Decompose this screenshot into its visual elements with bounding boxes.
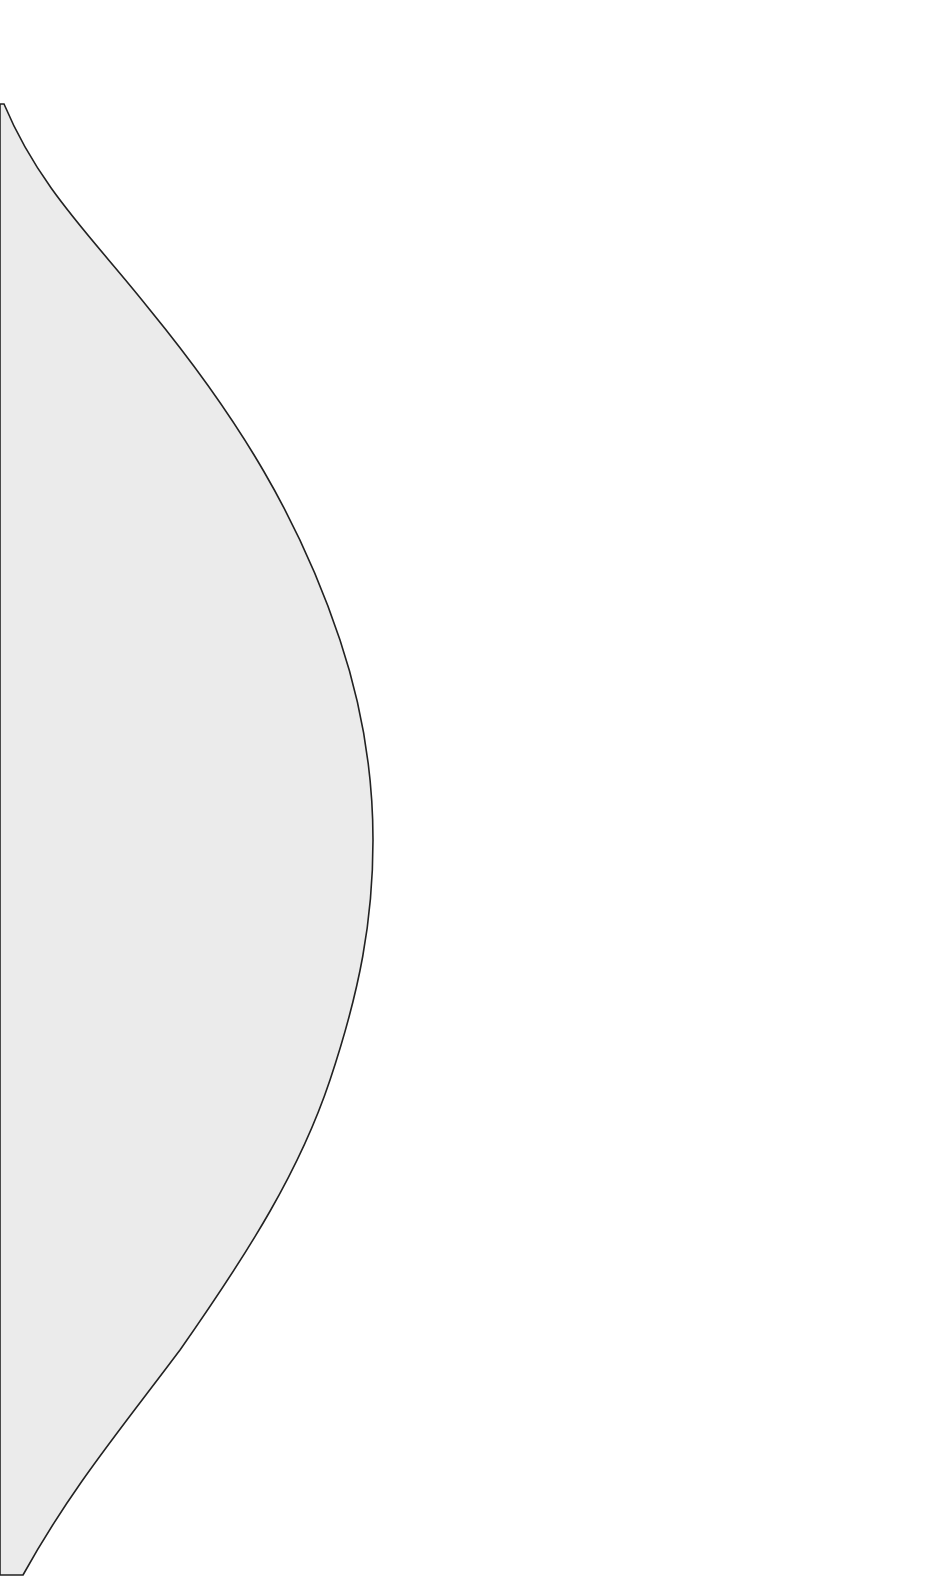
curve-region — [0, 104, 373, 1575]
curved-shape — [0, 0, 939, 1581]
